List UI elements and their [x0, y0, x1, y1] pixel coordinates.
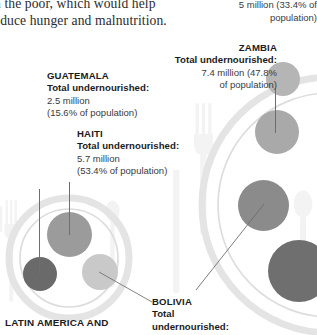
callout-bolivia-country: BOLIVIA	[152, 296, 252, 308]
leader-line-zambia	[275, 88, 276, 133]
fork-icon-edge	[0, 206, 2, 232]
leader-line-left-top	[69, 182, 70, 235]
callout-guatemala-value-line-2: (15.6% of population)	[47, 107, 197, 119]
bubble-guatemala	[23, 257, 57, 291]
callout-topright-unnamed: Total undernourished: 5 million (33.4% o…	[167, 0, 317, 24]
callout-topright-value-line-2: population)	[167, 12, 317, 24]
callout-haiti-country: HAITI	[77, 128, 217, 140]
callout-guatemala: GUATEMALA Total undernourished: 2.5 mill…	[47, 70, 197, 119]
callout-zambia-lead: Total undernourished:	[117, 54, 277, 66]
callout-topright-value-line-1: 5 million (33.4% of	[167, 0, 317, 12]
fork-icon-left	[5, 200, 19, 302]
callout-guatemala-country: GUATEMALA	[47, 70, 197, 82]
callout-haiti-lead: Total undernourished:	[77, 140, 217, 152]
callout-haiti: HAITI Total undernourished: 5.7 million …	[77, 128, 217, 177]
callout-guatemala-value-line-1: 2.5 million	[47, 95, 197, 107]
infographic-canvas: n the poor, which would help educe hunge…	[0, 0, 317, 335]
region-heading: LATIN AMERICA AND	[5, 317, 109, 328]
callout-zambia-country: ZAMBIA	[117, 42, 277, 54]
bubble-right-mid	[238, 180, 289, 231]
callout-guatemala-lead: Total undernourished:	[47, 82, 197, 94]
callout-bolivia-lead-cont: undernourished:	[152, 321, 252, 333]
leader-line-guatemala	[39, 189, 40, 274]
callout-bolivia-lead: Total	[152, 308, 252, 320]
knife-icon-right	[173, 170, 179, 293]
bubble-bolivia	[268, 240, 317, 302]
bubble-haiti	[82, 254, 118, 290]
bubble-zambia	[255, 110, 299, 154]
callout-haiti-value-line-1: 5.7 million	[77, 153, 217, 165]
callout-bolivia: BOLIVIA Total undernourished:	[152, 296, 252, 333]
callout-haiti-value-line-2: (53.4% of population)	[77, 165, 217, 177]
